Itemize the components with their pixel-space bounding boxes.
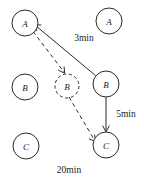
node-label-a-right: A bbox=[105, 17, 112, 27]
node-label-c-right: C bbox=[103, 141, 110, 151]
node-b-right[interactable]: B bbox=[93, 71, 119, 97]
node-c-right[interactable]: C bbox=[93, 132, 119, 158]
edge-label-5min: 5min bbox=[116, 109, 136, 119]
node-label-a-left: A bbox=[21, 19, 28, 29]
node-label-b-left: B bbox=[22, 83, 28, 93]
edge-label-3min: 3min bbox=[74, 33, 94, 43]
edge-b-right-to-c-right bbox=[103, 97, 109, 132]
node-label-b-right: B bbox=[103, 80, 109, 90]
edge-a-left-to-b-middle bbox=[33, 32, 65, 74]
node-a-right[interactable]: A bbox=[96, 8, 122, 34]
edge-label-20min: 20min bbox=[57, 165, 82, 175]
node-b-middle-dashed[interactable]: B bbox=[55, 74, 79, 98]
node-a-left[interactable]: A bbox=[12, 10, 38, 36]
state-transition-diagram: A A B B B C C 3min 5min 20min bbox=[0, 0, 144, 180]
edge-b-middle-to-c-right bbox=[69, 97, 96, 142]
arrowhead-to-b-middle bbox=[59, 67, 65, 73]
node-label-b-middle: B bbox=[64, 82, 70, 92]
node-b-left[interactable]: B bbox=[12, 74, 38, 100]
edge-line-b-middle-to-c-right bbox=[69, 97, 95, 141]
node-label-c-left: C bbox=[23, 142, 30, 152]
node-c-left[interactable]: C bbox=[13, 133, 39, 159]
diagram-canvas: A A B B B C C 3min 5min 20min bbox=[0, 0, 144, 180]
edge-line-a-left-to-b-middle bbox=[33, 32, 64, 73]
